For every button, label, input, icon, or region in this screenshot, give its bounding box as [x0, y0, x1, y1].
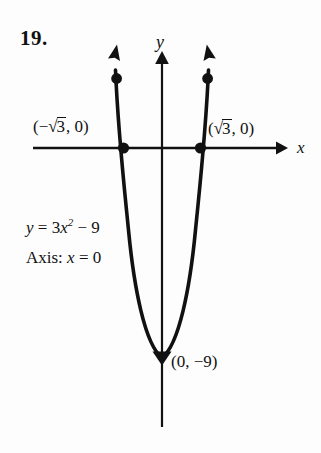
x-intercept-dot-positive [195, 142, 206, 153]
right-branch-arrowhead [204, 45, 216, 62]
problem-number: 19. [20, 28, 48, 49]
x-axis-label: x [297, 139, 305, 156]
axis-value: = 0 [79, 248, 101, 267]
x-intercept-dot-negative [118, 142, 129, 153]
minus-sign: − [39, 117, 49, 136]
label-root-positive: (√3, 0) [208, 119, 254, 138]
vertex-label: (0, −9) [171, 353, 217, 370]
axis-variable: x [67, 248, 75, 267]
radicand: 3 [222, 119, 232, 138]
y-axis [155, 51, 169, 427]
x-axis [33, 142, 288, 155]
equation-equals: = 3 [38, 218, 60, 237]
equation-label: y = 3x2 − 9 [26, 217, 100, 236]
label-root-negative: (−√3, 0) [33, 117, 89, 136]
left-branch-arrowhead [108, 45, 120, 62]
equation-tail: − 9 [77, 218, 99, 237]
axis-of-symmetry-label: Axis: x = 0 [26, 249, 101, 266]
radicand: 3 [57, 117, 67, 136]
left-branch-dot [111, 73, 122, 84]
paren-close: , 0) [66, 117, 89, 136]
y-axis-arrowhead [155, 51, 169, 64]
axis-word: Axis: [26, 248, 63, 267]
paren-close: , 0) [232, 119, 255, 138]
equation-variable-x: x [60, 218, 68, 237]
equation-variable-y: y [26, 218, 34, 237]
right-branch-dot [202, 73, 213, 84]
parabola-figure: 19. y x (−√3, 0) (√3, 0) y = 3x2 − 9 Axi… [0, 0, 321, 453]
x-axis-arrowhead [276, 142, 288, 155]
equation-exponent: 2 [68, 216, 74, 228]
y-axis-label: y [156, 33, 164, 51]
vertex-marker [153, 352, 172, 366]
